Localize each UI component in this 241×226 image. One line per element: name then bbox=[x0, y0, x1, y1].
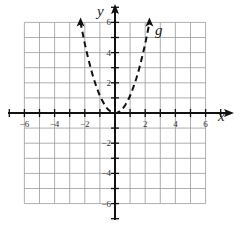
coordinate-plane: −6−4−2246−6−4−2246 y x g bbox=[0, 0, 241, 226]
svg-text:2: 2 bbox=[107, 78, 112, 88]
svg-text:6: 6 bbox=[203, 119, 208, 129]
y-axis-label: y bbox=[95, 3, 104, 19]
svg-text:−4: −4 bbox=[50, 119, 60, 129]
axes bbox=[8, 4, 234, 220]
curve-label-g: g bbox=[155, 22, 163, 38]
arrow-head-icon bbox=[145, 17, 153, 26]
svg-text:−6: −6 bbox=[20, 119, 30, 129]
svg-text:−6: −6 bbox=[101, 199, 111, 209]
svg-text:−2: −2 bbox=[101, 138, 111, 148]
svg-text:4: 4 bbox=[173, 119, 178, 129]
svg-text:2: 2 bbox=[143, 119, 148, 129]
svg-text:−2: −2 bbox=[80, 119, 90, 129]
svg-text:4: 4 bbox=[107, 48, 112, 58]
x-axis-label: x bbox=[217, 108, 225, 124]
svg-text:6: 6 bbox=[107, 17, 112, 27]
svg-text:−4: −4 bbox=[101, 168, 111, 178]
